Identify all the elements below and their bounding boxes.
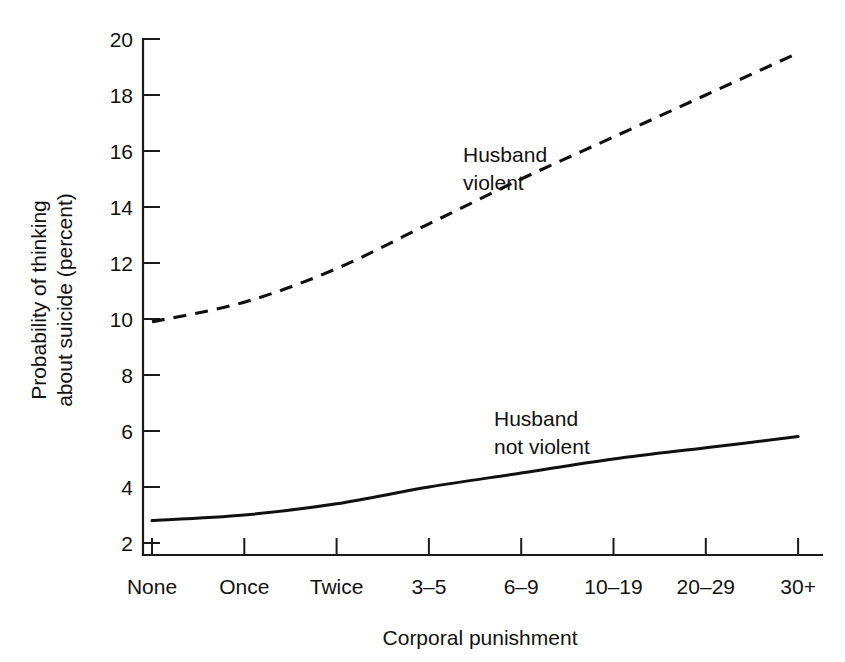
x-tick-label: Once [219, 575, 269, 598]
y-tick-label: 8 [121, 364, 133, 387]
y-tick-label: 10 [110, 308, 133, 331]
y-tick-label: 18 [110, 84, 133, 107]
chart-figure: 2468101214161820 Probability of thinking… [0, 0, 845, 662]
series-group [152, 53, 798, 521]
annotation-violent-line2: violent [463, 171, 524, 194]
y-tick-label: 2 [121, 532, 133, 555]
y-tick-group: 2468101214161820 [110, 28, 160, 555]
y-tick-label: 12 [110, 252, 133, 275]
series-line-husband-not-violent [152, 437, 798, 521]
y-axis-title-line2: about suicide (percent) [53, 193, 76, 407]
x-tick-label: 6–9 [504, 575, 539, 598]
x-axis-title: Corporal punishment [383, 626, 578, 649]
annotation-not-violent-line1: Husband [494, 407, 578, 430]
annotation-husband-not-violent: Husband not violent [494, 407, 590, 458]
annotation-husband-violent: Husband violent [463, 143, 547, 194]
x-tick-label: 20–29 [677, 575, 735, 598]
x-tick-label: None [127, 575, 177, 598]
annotation-not-violent-line2: not violent [494, 435, 590, 458]
line-chart: 2468101214161820 Probability of thinking… [0, 0, 845, 662]
y-tick-label: 14 [110, 196, 134, 219]
annotation-violent-line1: Husband [463, 143, 547, 166]
x-tick-label: 3–5 [411, 575, 446, 598]
y-tick-label: 20 [110, 28, 133, 51]
x-tick-group: NoneOnceTwice3–56–910–1920–2930+ [127, 538, 816, 598]
x-axis: NoneOnceTwice3–56–910–1920–2930+ Corpora… [127, 538, 822, 649]
x-tick-label: Twice [310, 575, 364, 598]
x-tick-label: 10–19 [584, 575, 642, 598]
y-tick-label: 4 [121, 476, 133, 499]
y-axis-title-line1: Probability of thinking [27, 200, 50, 400]
y-axis: 2468101214161820 Probability of thinking… [27, 28, 160, 555]
y-tick-label: 16 [110, 140, 133, 163]
y-axis-title: Probability of thinking about suicide (p… [27, 193, 76, 407]
y-tick-label: 6 [121, 420, 133, 443]
x-tick-label: 30+ [780, 575, 816, 598]
